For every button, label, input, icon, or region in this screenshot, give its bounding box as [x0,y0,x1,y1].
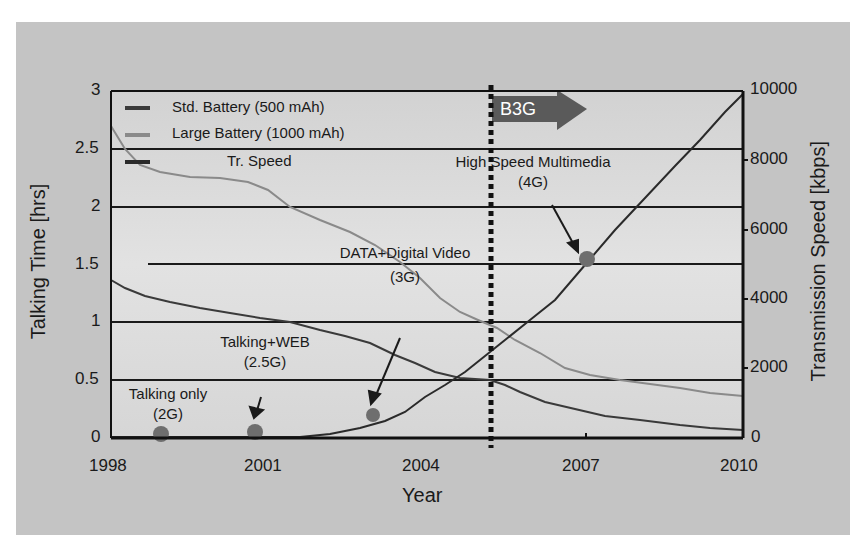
annotation-25g-gen: (2.5G) [205,352,325,372]
y-tick: 0.5 [75,369,99,389]
b3g-label: B3G [500,99,536,120]
y-right-tick: 4000 [750,288,788,308]
y-right-tick: 6000 [750,219,788,239]
annotation-4g-gen: (4G) [438,172,628,192]
legend-std-battery: Std. Battery (500 mAh) [172,98,325,115]
y-right-tick: 8000 [750,149,788,169]
annotation-3g: DATA+Digital Video (3G) [320,243,490,287]
annotation-2g-title: Talking only [118,384,218,404]
x-tick: 2010 [720,456,758,476]
annotation-25g: Talking+WEB (2.5G) [205,332,325,372]
marker-3g [366,408,380,422]
annotation-2g-gen: (2G) [118,404,218,424]
x-tick: 2004 [402,456,440,476]
annotation-4g: High Speed Multimedia (4G) [438,152,628,192]
x-tick: 1998 [89,456,127,476]
y-right-tick: 0 [751,427,760,447]
legend-swatch-std [125,106,150,110]
legend-tr-speed: Tr. Speed [227,152,291,169]
x-axis-label: Year [402,484,442,507]
y-right-tick: 2000 [750,357,788,377]
y-right-tick: 10000 [750,79,797,99]
y-tick: 0 [91,427,100,447]
x-tick: 2001 [244,456,282,476]
legend-swatch-speed [125,160,150,164]
annotation-3g-gen: (3G) [320,267,490,287]
y-tick: 2.5 [75,138,99,158]
y-tick: 2 [91,196,100,216]
annotation-3g-title: DATA+Digital Video [320,243,490,263]
legend-swatch-large [125,133,150,137]
y-tick: 1.5 [75,254,99,274]
annotation-4g-title: High Speed Multimedia [438,152,628,172]
marker-4g [579,251,595,267]
x-tick: 2007 [562,456,600,476]
legend-large-battery: Large Battery (1000 mAh) [172,124,345,141]
annotation-25g-title: Talking+WEB [205,332,325,352]
y-right-axis-label: Transmission Speed [kbps] [807,142,830,382]
y-tick: 1 [91,311,100,331]
marker-2g [153,426,169,442]
annotation-2g: Talking only (2G) [118,384,218,424]
y-tick: 3 [91,80,100,100]
y-axis-label: Talking Time [hrs] [27,172,50,352]
